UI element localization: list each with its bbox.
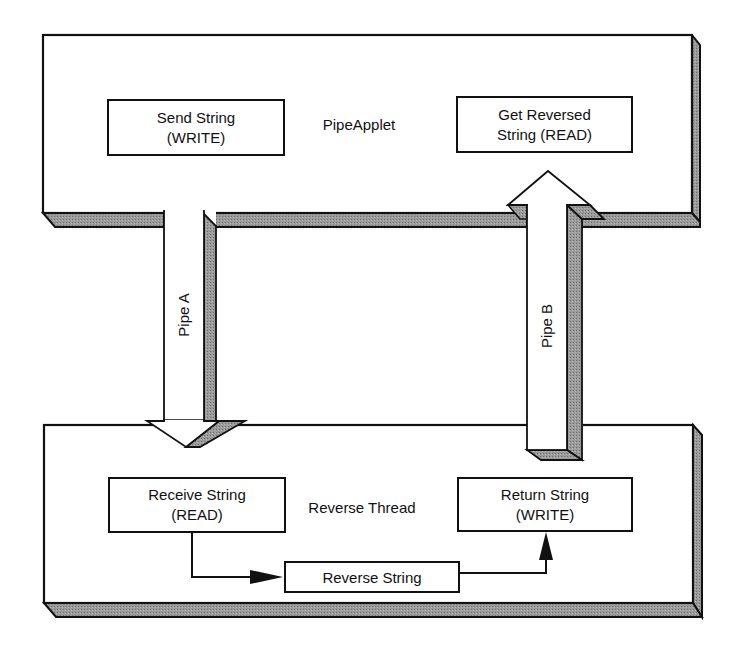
send-string-mode: (WRITE) — [167, 129, 225, 146]
get-reversed-label: Get Reversed — [498, 106, 591, 123]
pipe-b-arrow — [508, 171, 604, 460]
pipe-b-label: Pipe B — [538, 304, 555, 348]
return-string-label: Return String — [501, 486, 589, 503]
receive-string-label: Receive String — [148, 486, 246, 503]
pipe-a-arrow — [147, 205, 245, 447]
return-string-box: Return String (WRITE) — [458, 478, 632, 531]
receive-string-mode: (READ) — [171, 506, 223, 523]
pipe-a-label: Pipe A — [175, 293, 192, 336]
return-string-mode: (WRITE) — [516, 506, 574, 523]
pipeapplet-label: PipeApplet — [323, 116, 396, 133]
reverse-string-label: Reverse String — [322, 569, 421, 586]
reverse-string-box: Reverse String — [285, 562, 459, 592]
reverse-thread-label: Reverse Thread — [308, 499, 415, 516]
send-string-box: Send String (WRITE) — [108, 100, 284, 155]
get-reversed-string-box: Get Reversed String (READ) — [457, 97, 632, 152]
receive-string-box: Receive String (READ) — [109, 478, 285, 532]
send-string-label: Send String — [157, 109, 235, 126]
pipe-diagram: Send String (WRITE) PipeApplet Get Rever… — [0, 0, 737, 647]
get-reversed-mode: String (READ) — [497, 126, 592, 143]
